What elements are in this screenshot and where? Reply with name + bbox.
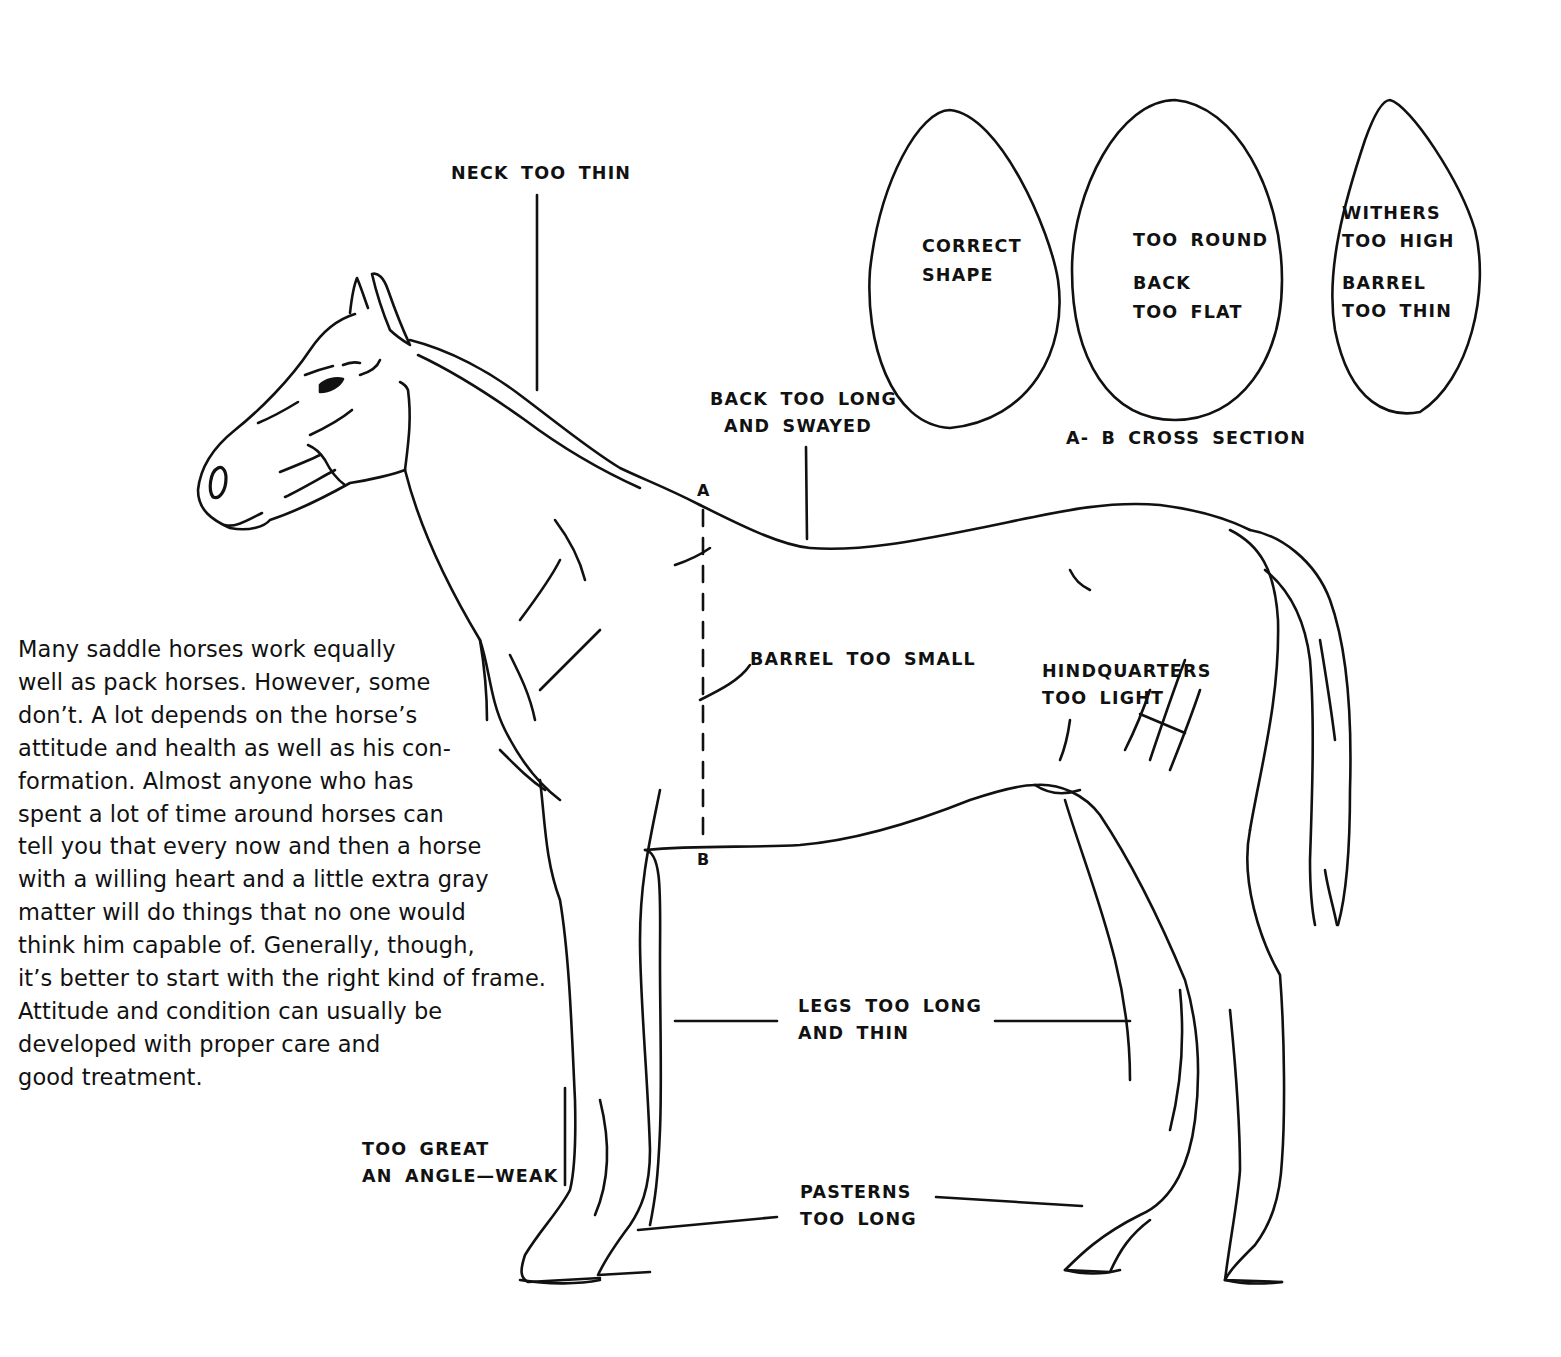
callout-back-too-long: BACK TOO LONG AND SWAYED (710, 386, 897, 440)
body-paragraph: Many saddle horses work equally well as … (18, 633, 578, 1094)
callout-line: HINDQUARTERS (1042, 658, 1211, 685)
paragraph-line: tell you that every now and then a horse (18, 830, 578, 863)
paragraph-line: it’s better to start with the right kind… (18, 962, 578, 995)
callout-leader-lines (537, 195, 1185, 1230)
pasterns-leader-line-right (936, 1197, 1082, 1206)
callout-line: TOO GREAT (362, 1136, 558, 1163)
pasterns-leader-line-left (638, 1217, 777, 1230)
callout-line: AN ANGLE—WEAK (362, 1163, 558, 1190)
section-marker-a: A (697, 481, 709, 500)
callout-hindquarters-too-light: HINDQUARTERS TOO LIGHT (1042, 658, 1211, 712)
shape-label-line: TOO FLAT (1133, 298, 1268, 327)
paragraph-line: don’t. A lot depends on the horse’s (18, 699, 578, 732)
callout-line: AND THIN (798, 1020, 982, 1047)
shape-label-too-thin: WITHERS TOO HIGH BARREL TOO THIN (1342, 199, 1455, 325)
callout-line: BACK TOO LONG (710, 386, 897, 413)
callout-line: NECK TOO THIN (451, 160, 631, 187)
horse-conformation-diagram: NECK TOO THIN BACK TOO LONG AND SWAYED B… (0, 0, 1561, 1357)
cross-section-caption: A- B CROSS SECTION (1066, 425, 1306, 452)
callout-legs-too-long: LEGS TOO LONG AND THIN (798, 993, 982, 1047)
shape-label-line: WITHERS (1342, 199, 1455, 227)
shape-label-line: TOO ROUND (1133, 226, 1268, 255)
callout-line: BARREL TOO SMALL (750, 646, 976, 673)
shape-label-too-round: TOO ROUND BACK TOO FLAT (1133, 226, 1268, 327)
shape-label-line: TOO THIN (1342, 297, 1455, 325)
shape-label-line: TOO HIGH (1342, 227, 1455, 255)
callout-line: AND SWAYED (710, 413, 897, 440)
paragraph-line: good treatment. (18, 1061, 578, 1094)
shape-label-line: CORRECT (922, 232, 1022, 261)
callout-line: LEGS TOO LONG (798, 993, 982, 1020)
callout-pasterns-too-long: PASTERNS TOO LONG (800, 1179, 917, 1233)
back-leader-line (806, 447, 807, 539)
shape-label-line: BACK (1133, 269, 1268, 298)
paragraph-line: attitude and health as well as his con- (18, 732, 578, 765)
callout-barrel-too-small: BARREL TOO SMALL (750, 646, 976, 673)
paragraph-line: developed with proper care and (18, 1028, 578, 1061)
paragraph-line: spent a lot of time around horses can (18, 798, 578, 831)
paragraph-line: Attitude and condition can usually be (18, 995, 578, 1028)
paragraph-line: formation. Almost anyone who has (18, 765, 578, 798)
paragraph-line: matter will do things that no one would (18, 896, 578, 929)
section-marker-b: B (697, 850, 709, 869)
shape-label-line: BARREL (1342, 269, 1455, 297)
callout-line: TOO LONG (800, 1206, 917, 1233)
callout-too-great-an-angle: TOO GREAT AN ANGLE—WEAK (362, 1136, 558, 1190)
paragraph-line: with a willing heart and a little extra … (18, 863, 578, 896)
callout-line: TOO LIGHT (1042, 685, 1211, 712)
shape-label-line: SHAPE (922, 261, 1022, 290)
callout-line: PASTERNS (800, 1179, 917, 1206)
paragraph-line: Many saddle horses work equally (18, 633, 578, 666)
paragraph-line: well as pack horses. However, some (18, 666, 578, 699)
shape-label-correct: CORRECT SHAPE (922, 232, 1022, 290)
callout-neck-too-thin: NECK TOO THIN (451, 160, 631, 187)
paragraph-line: think him capable of. Generally, though, (18, 929, 578, 962)
